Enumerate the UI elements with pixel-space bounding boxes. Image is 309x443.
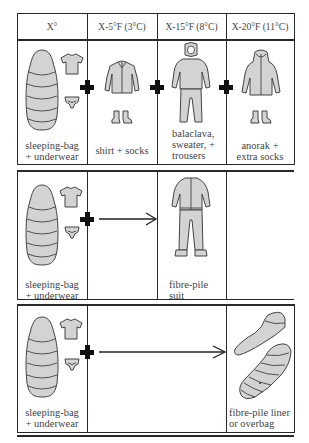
caption-sleeping-bag-underwear: sleeping-bag + underwear [17,140,87,162]
caption-sleeping-bag-underwear: sleeping-bag + underwear [17,407,87,429]
caption-balaclava-sweater-trousers: balaclava, sweater, + trousers [172,128,227,161]
plus-icon [219,80,233,94]
caption-anorak-extra-socks: anorak + extra socks [226,140,294,162]
table-top-border [17,170,294,172]
col-border [87,170,88,300]
col-border [226,304,227,433]
anorak-icon [241,50,281,96]
table-bottom-border [17,164,294,165]
caption-line: + underwear [17,290,87,301]
underpants-icon [64,96,80,109]
caption-line: suit [169,290,224,301]
caption-shirt-socks: shirt + socks [87,145,157,156]
header-temp-minus5: X-5°F (3°C) [87,14,157,40]
socks-icon [111,110,133,124]
socks-icon [250,110,272,124]
header-temp-minus20: X-20°F (11°C) [226,14,294,40]
caption-line: + underwear [17,151,87,162]
caption-line: sleeping-bag [17,279,87,290]
balaclava-sweater-trousers-icon [171,42,211,124]
caption-line: + underwear [17,418,87,429]
col-border [157,170,158,300]
t-shirt-icon [59,186,83,208]
caption-line: or overbag [229,418,295,429]
caption-line: anorak + [226,140,294,151]
shirt-icon [104,60,140,94]
sleeping-bag-icon [24,48,60,132]
sleeping-bag-icon [24,315,60,399]
overbag-icon [237,343,293,401]
arrow-icon [99,212,159,226]
plus-icon [80,212,94,226]
caption-line: sleeping-bag [17,407,87,418]
caption-sleeping-bag-underwear: sleeping-bag + underwear [17,279,87,301]
sleeping-bag-icon [24,183,60,267]
caption-line: fibre-pile [169,279,224,290]
caption-fibre-pile-suit: fibre-pile suit [169,279,224,301]
fibre-pile-suit-icon [171,176,211,260]
caption-line: sleeping-bag [17,140,87,151]
header-temp-base: X° [17,14,87,40]
table-top-border [17,304,294,306]
caption-line: trousers [172,150,227,161]
caption-fibre-pile-liner-overbag: fibre-pile liner or overbag [229,407,295,429]
t-shirt-icon [59,318,83,340]
col-border [87,304,88,433]
plus-icon [80,345,94,359]
caption-line: fibre-pile liner [229,407,295,418]
plus-icon [150,80,164,94]
col-border [294,13,295,165]
caption-line: extra socks [226,151,294,162]
caption-line: balaclava, [172,128,227,139]
col-border [226,170,227,300]
caption-line: sweater, + [172,139,227,150]
plus-icon [80,80,94,94]
arrow-icon [99,345,227,359]
t-shirt-icon [60,53,84,75]
underpants-icon [64,226,80,239]
table-double-border [17,435,294,437]
table-bottom-border [17,432,294,433]
underpants-icon [64,358,80,371]
header-temp-minus15: X-15°F (8°C) [157,14,226,40]
